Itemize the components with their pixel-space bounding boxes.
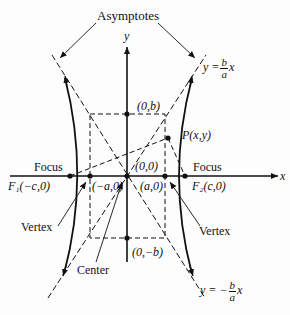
left-focus-label: F₁(−c,0)	[8, 180, 50, 192]
bottom-co-vertex-point	[124, 235, 129, 240]
upper-asymptote-equation: y =bax	[203, 57, 234, 80]
bottom-co-vertex-label: (0,−b)	[132, 246, 163, 258]
left-vertex-callout: Vertex	[21, 221, 52, 233]
point-p-label: P(x,y)	[182, 129, 211, 141]
right-focus-label: F₂(c,0)	[192, 180, 226, 192]
right-vertex-label: (a,0)	[140, 180, 163, 192]
right-focus-point	[182, 173, 187, 178]
left-focus-point	[67, 173, 72, 178]
top-co-vertex-point	[124, 111, 129, 116]
hyperbola-diagram: Asymptotes y x y =bax y = −bax (0,b) (0,…	[0, 0, 290, 315]
right-vertex-callout: Vertex	[199, 225, 230, 237]
right-vertex-point	[162, 173, 167, 178]
point-p	[165, 135, 170, 140]
diagram-graphics	[0, 0, 290, 315]
top-co-vertex-label: (0,b)	[137, 100, 160, 112]
asymptotes-label: Asymptotes	[97, 9, 159, 22]
focal-radius-right	[168, 138, 185, 176]
origin-label: (0,0)	[135, 160, 158, 172]
x-axis-label: x	[280, 170, 285, 182]
center-point	[124, 173, 129, 178]
left-focus-callout: Focus	[34, 161, 63, 173]
left-vertex-label: (−a,0)	[92, 180, 123, 192]
lower-asymptote-equation: y = −bax	[200, 280, 242, 303]
right-focus-callout: Focus	[193, 161, 222, 173]
y-axis-label: y	[124, 30, 129, 42]
center-callout: Center	[77, 264, 109, 276]
left-vertex-point	[87, 173, 92, 178]
